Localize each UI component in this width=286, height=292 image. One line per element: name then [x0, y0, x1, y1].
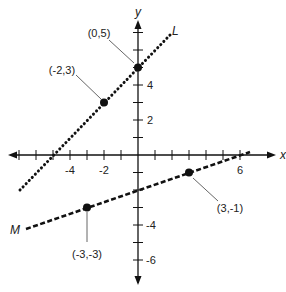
y-axis: 4 2 -4 -6 y	[133, 5, 156, 285]
x-tick-label-neg2: -2	[99, 164, 109, 176]
point-0-5: (0,5)	[88, 27, 142, 72]
x-axis-right-arrow-icon	[267, 152, 276, 159]
point-neg2-3: (-2,3)	[49, 64, 108, 107]
point-label-3-neg1: (3,-1)	[217, 202, 243, 214]
coordinate-plane-svg: -4 -2 6 x 4 2 -4 -6 y L	[0, 0, 286, 292]
line-L-label: L	[172, 24, 179, 38]
x-axis-label: x	[279, 148, 286, 162]
point-label-neg3-neg3: (-3,-3)	[72, 248, 102, 260]
point-label-0-5: (0,5)	[88, 27, 111, 39]
line-M-label: M	[10, 223, 20, 237]
y-tick-label-neg4: -4	[146, 219, 156, 231]
y-axis-down-arrow-icon	[135, 276, 142, 285]
point-3-neg1: (3,-1)	[185, 169, 243, 215]
y-tick-label-4: 4	[147, 79, 153, 91]
point-label-neg2-3: (-2,3)	[49, 64, 75, 76]
x-axis: -4 -2 6 x	[8, 148, 286, 176]
coordinate-plane-figure: -4 -2 6 x 4 2 -4 -6 y L	[0, 0, 286, 292]
x-tick-label-6: 6	[237, 164, 243, 176]
y-tick-label-neg6: -6	[146, 254, 156, 266]
y-axis-up-arrow-icon	[135, 20, 142, 29]
x-axis-left-arrow-icon	[8, 152, 17, 159]
y-tick-label-2: 2	[147, 114, 153, 126]
y-axis-label: y	[134, 5, 142, 19]
x-tick-label-neg4: -4	[65, 164, 75, 176]
